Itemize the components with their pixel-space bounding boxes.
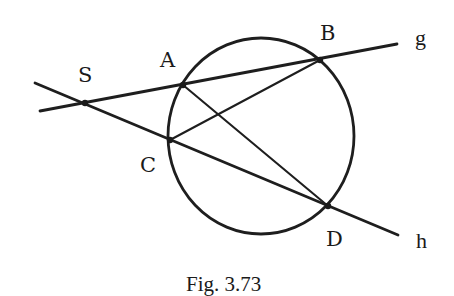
label-d: D <box>326 227 343 251</box>
geometry-figure: S A B C D g h Fig. 3.73 <box>0 0 454 296</box>
label-line-g: g <box>415 25 426 50</box>
label-c: C <box>140 153 156 177</box>
point-b <box>317 57 323 63</box>
chord-ad <box>183 85 328 206</box>
label-s: S <box>78 63 92 87</box>
label-line-h: h <box>416 228 427 253</box>
point-d <box>325 203 331 209</box>
line-h <box>35 83 398 235</box>
line-g <box>40 44 397 111</box>
figure-caption: Fig. 3.73 <box>186 272 261 296</box>
label-a: A <box>159 48 176 72</box>
point-a <box>180 82 186 88</box>
label-b: B <box>320 21 335 45</box>
point-c <box>167 137 173 143</box>
point-s <box>82 100 88 106</box>
